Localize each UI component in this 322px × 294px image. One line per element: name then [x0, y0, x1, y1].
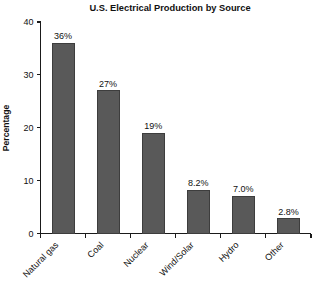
bar-value-label: 19%: [144, 121, 162, 131]
bar-value-label: 27%: [99, 79, 117, 89]
bar-value-label: 36%: [54, 31, 72, 41]
bar: [278, 219, 300, 234]
chart-container: U.S. Electrical Production by Source Per…: [0, 0, 322, 294]
y-axis-title: Percentage: [1, 105, 11, 152]
bar-value-label: 7.0%: [233, 184, 254, 194]
bar-value-label: 2.8%: [278, 207, 299, 217]
y-tick-label: 40: [23, 17, 33, 27]
y-tick-label: 0: [28, 229, 33, 239]
bar-chart: U.S. Electrical Production by Source Per…: [0, 0, 322, 294]
bar: [98, 91, 120, 234]
bar: [188, 190, 210, 233]
y-tick-label: 30: [23, 70, 33, 80]
y-tick-label: 10: [23, 176, 33, 186]
bar: [53, 43, 75, 233]
chart-title: U.S. Electrical Production by Source: [89, 3, 250, 13]
bar-value-label: 8.2%: [188, 178, 209, 188]
bar: [233, 196, 255, 233]
y-tick-label: 20: [23, 123, 33, 133]
bar: [143, 133, 165, 233]
